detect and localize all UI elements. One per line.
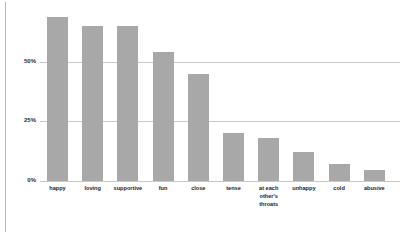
bar-3[interactable]: [153, 0, 174, 181]
bar-1[interactable]: [82, 0, 103, 181]
bar-rect: [117, 26, 138, 181]
bar-8[interactable]: [329, 0, 350, 181]
bar-chart: 50% 25% 0% happylovingsupportivefunclose…: [0, 0, 417, 238]
bar-rect: [329, 164, 350, 181]
bar-9[interactable]: [364, 0, 385, 181]
bar-4[interactable]: [188, 0, 209, 181]
bar-rect: [293, 152, 314, 181]
y-tick-label-25: 25%: [8, 117, 36, 124]
bar-rect: [258, 138, 279, 181]
bar-series: happylovingsupportivefunclosetenseat eac…: [47, 0, 407, 181]
bar-6[interactable]: [258, 0, 279, 181]
bar-7[interactable]: [293, 0, 314, 181]
y-tick-label-50: 50%: [8, 58, 36, 65]
bar-rect: [364, 170, 385, 181]
bar-2[interactable]: [117, 0, 138, 181]
bar-rect: [188, 74, 209, 181]
bar-0[interactable]: [47, 0, 68, 181]
axis-baseline: [40, 181, 400, 182]
bar-5[interactable]: [223, 0, 244, 181]
plot-area: 50% 25% 0% happylovingsupportivefunclose…: [0, 0, 417, 238]
bar-rect: [223, 133, 244, 181]
y-tick-label-0: 0%: [8, 177, 36, 184]
bar-category-label: abusive: [351, 184, 397, 192]
bar-rect: [47, 17, 68, 181]
bar-rect: [82, 26, 103, 181]
bar-rect: [153, 52, 174, 181]
